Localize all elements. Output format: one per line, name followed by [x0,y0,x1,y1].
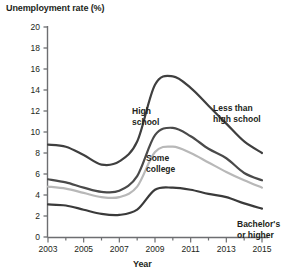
unemployment-rate-line-chart: Unemployment rate (%) 02468101214161820 … [0,0,305,274]
x-axis-ticks [48,238,262,243]
x-axis-title: Year [133,259,152,269]
y-tick-label-18: 18 [20,43,40,53]
series-label-high-school: High school [132,106,159,127]
y-tick-label-10: 10 [20,127,40,137]
x-tick-label-2003: 2003 [31,244,65,254]
y-tick-label-6: 6 [20,169,40,179]
series-label-high-school-line1: High [132,106,159,117]
x-tick-label-2007: 2007 [102,244,136,254]
y-tick-label-12: 12 [20,106,40,116]
x-tick-label-2005: 2005 [67,244,101,254]
series-label-less-than-line2: high school [213,114,261,125]
series-label-less-than-high-school: Less than high school [213,103,261,124]
y-tick-label-8: 8 [20,148,40,158]
y-tick-label-4: 4 [20,190,40,200]
data-series-group [48,76,262,215]
series-label-less-than-line1: Less than [213,103,261,114]
y-tick-label-2: 2 [20,211,40,221]
y-tick-label-20: 20 [20,22,40,32]
series-label-some-college-line2: college [146,164,175,175]
y-tick-label-14: 14 [20,85,40,95]
series-label-bachelors-or-higher: Bachelor's or higher [237,219,280,240]
y-tick-label-0: 0 [20,232,40,242]
x-tick-label-2015: 2015 [245,244,279,254]
x-tick-label-2013: 2013 [209,244,243,254]
series-label-high-school-line2: school [132,117,159,128]
series-label-some-college: Some college [146,153,175,174]
series-label-some-college-line1: Some [146,153,175,164]
series-label-bachelors-line2: or higher [237,230,280,241]
y-tick-label-16: 16 [20,64,40,74]
x-tick-label-2011: 2011 [174,244,208,254]
series-label-bachelors-line1: Bachelor's [237,219,280,230]
x-tick-label-2009: 2009 [138,244,172,254]
